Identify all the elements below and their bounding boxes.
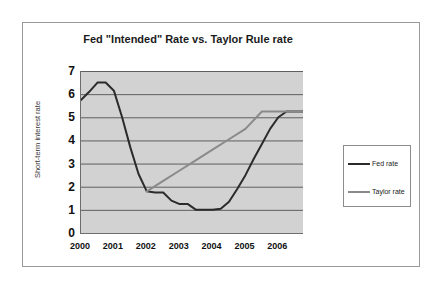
legend-item[interactable]: Taylor rate: [348, 188, 405, 195]
chart-legend: Fed rateTaylor rate: [343, 145, 411, 207]
legend-item[interactable]: Fed rate: [348, 160, 398, 167]
series-lines: [81, 83, 303, 210]
y-tick-label: 6: [55, 88, 75, 100]
y-tick-label: 5: [55, 111, 75, 123]
y-tick-label: 2: [55, 181, 75, 193]
legend-item-label: Fed rate: [372, 160, 398, 167]
legend-item-label: Taylor rate: [372, 188, 405, 195]
x-tick-label: 2004: [202, 241, 222, 251]
y-tick-label: 3: [55, 158, 75, 170]
chart-figure: Fed "Intended" Rate vs. Taylor Rule rate…: [22, 22, 420, 267]
y-tick-label: 4: [55, 134, 75, 146]
y-tick-label: 7: [55, 65, 75, 77]
x-tick-label: 2002: [136, 241, 156, 251]
plot-svg: [81, 71, 303, 233]
x-tick-label: 2001: [103, 241, 123, 251]
y-axis-tick-labels: 76543210: [55, 71, 75, 233]
y-tick-label: 0: [55, 227, 75, 239]
chart-title: Fed "Intended" Rate vs. Taylor Rule rate: [23, 33, 353, 45]
plot-area: [80, 71, 303, 234]
y-tick-label: 1: [55, 204, 75, 216]
x-tick-label: 2006: [267, 241, 287, 251]
x-tick-label: 2003: [169, 241, 189, 251]
x-tick-label: 2000: [70, 241, 90, 251]
series-line: [81, 83, 303, 210]
x-axis-tick-labels: 2000200120022003200420052006: [80, 241, 310, 255]
y-axis-title: Short-term interest rate: [33, 80, 42, 200]
series-line: [147, 112, 303, 192]
x-tick-label: 2005: [234, 241, 254, 251]
legend-color-swatch: [348, 191, 370, 193]
legend-color-swatch: [348, 163, 370, 165]
